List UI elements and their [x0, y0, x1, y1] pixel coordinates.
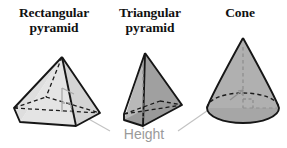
triangular-pyramid-shape	[124, 53, 182, 126]
geometry-diagram: Rectangular pyramid Triangular pyramid C…	[0, 0, 287, 148]
rectangular-pyramid-shape	[14, 57, 100, 126]
cone-base-front	[207, 108, 279, 123]
cone-shape	[207, 38, 279, 123]
height-callout-label: Height	[102, 126, 186, 142]
